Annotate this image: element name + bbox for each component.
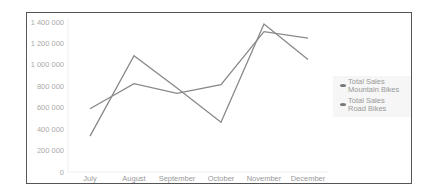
x-axis: JulyAugustSeptemberOctoberNovemberDecemb…: [83, 174, 325, 183]
y-tick-label: 1 000 000: [31, 60, 64, 69]
legend-item-mountain-bikes: Total Sales Mountain Bikes: [333, 78, 411, 98]
x-tick-label: July: [83, 174, 97, 183]
y-tick-label: 1 400 000: [31, 18, 64, 27]
x-tick-label: September: [159, 174, 196, 183]
legend-marker-icon: [340, 103, 346, 106]
y-tick-label: 0: [60, 168, 64, 177]
x-tick-label: November: [247, 174, 282, 183]
y-tick-label: 1 200 000: [31, 39, 64, 48]
y-tick-label: 400 000: [37, 125, 64, 134]
legend-label: Total Sales Road Bikes: [348, 97, 386, 113]
series-line-road-bikes: [90, 32, 308, 109]
series-lines: [90, 24, 308, 136]
series-line-mountain-bikes: [90, 24, 308, 136]
y-tick-label: 200 000: [37, 146, 64, 155]
y-axis: 0200 000400 000600 000800 0001 000 0001 …: [31, 18, 328, 177]
legend-item-road-bikes: Total Sales Road Bikes: [333, 97, 411, 117]
y-tick-label: 800 000: [37, 82, 64, 91]
y-tick-label: 600 000: [37, 103, 64, 112]
legend-label: Total Sales Mountain Bikes: [348, 78, 399, 94]
x-tick-label: August: [122, 174, 146, 183]
chart-legend: Total Sales Mountain Bikes Total Sales R…: [333, 76, 411, 117]
x-tick-label: October: [208, 174, 235, 183]
x-tick-label: December: [291, 174, 326, 183]
legend-marker-icon: [340, 84, 346, 87]
